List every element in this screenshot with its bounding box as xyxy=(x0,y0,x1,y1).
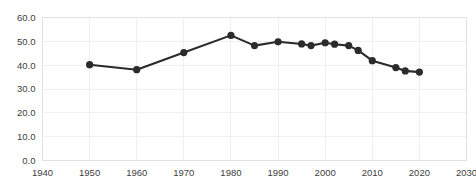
x-axis-tick-label: 1960 xyxy=(126,167,147,178)
x-axis-tick-label: 1990 xyxy=(267,167,288,178)
data-point-marker xyxy=(345,42,352,49)
y-axis-tick-label: 30.0 xyxy=(17,83,36,94)
gridlines-horizontal xyxy=(43,18,467,137)
data-point-marker xyxy=(331,41,338,48)
data-point-marker xyxy=(355,47,362,54)
y-axis-tick-label: 10.0 xyxy=(17,131,36,142)
y-axis-tick-label: 60.0 xyxy=(17,12,36,23)
x-axis-tick-label: 2000 xyxy=(315,167,336,178)
data-point-marker xyxy=(402,67,409,74)
y-axis-tick-labels: 0.010.020.030.040.050.060.0 xyxy=(17,12,36,166)
data-point-marker xyxy=(227,32,234,39)
y-axis-tick-label: 0.0 xyxy=(22,155,35,166)
y-axis-tick-label: 50.0 xyxy=(17,36,36,47)
data-point-marker xyxy=(392,64,399,71)
data-point-marker xyxy=(307,42,314,49)
y-axis-tick-label: 40.0 xyxy=(17,60,36,71)
x-axis-tick-label: 1980 xyxy=(220,167,241,178)
x-axis-tick-label: 1970 xyxy=(173,167,194,178)
chart-canvas: 0.010.020.030.040.050.060.0 194019501960… xyxy=(0,0,476,185)
data-point-marker xyxy=(274,38,281,45)
x-axis-tick-label: 2030 xyxy=(456,167,476,178)
data-point-marker xyxy=(322,39,329,46)
line-chart: 0.010.020.030.040.050.060.0 194019501960… xyxy=(0,0,476,185)
data-point-marker xyxy=(133,66,140,73)
data-point-marker xyxy=(298,40,305,47)
x-axis-tick-labels: 1940195019601970198019902000201020202030 xyxy=(32,167,476,178)
y-axis-tick-label: 20.0 xyxy=(17,107,36,118)
x-axis-tick-label: 2020 xyxy=(409,167,430,178)
data-point-marker xyxy=(416,68,423,75)
data-point-marker xyxy=(180,49,187,56)
x-axis-tick-label: 1950 xyxy=(79,167,100,178)
x-axis-tick-label: 2010 xyxy=(362,167,383,178)
data-point-marker xyxy=(86,61,93,68)
data-point-marker xyxy=(251,42,258,49)
x-axis-tick-label: 1940 xyxy=(32,167,53,178)
data-point-marker xyxy=(369,57,376,64)
